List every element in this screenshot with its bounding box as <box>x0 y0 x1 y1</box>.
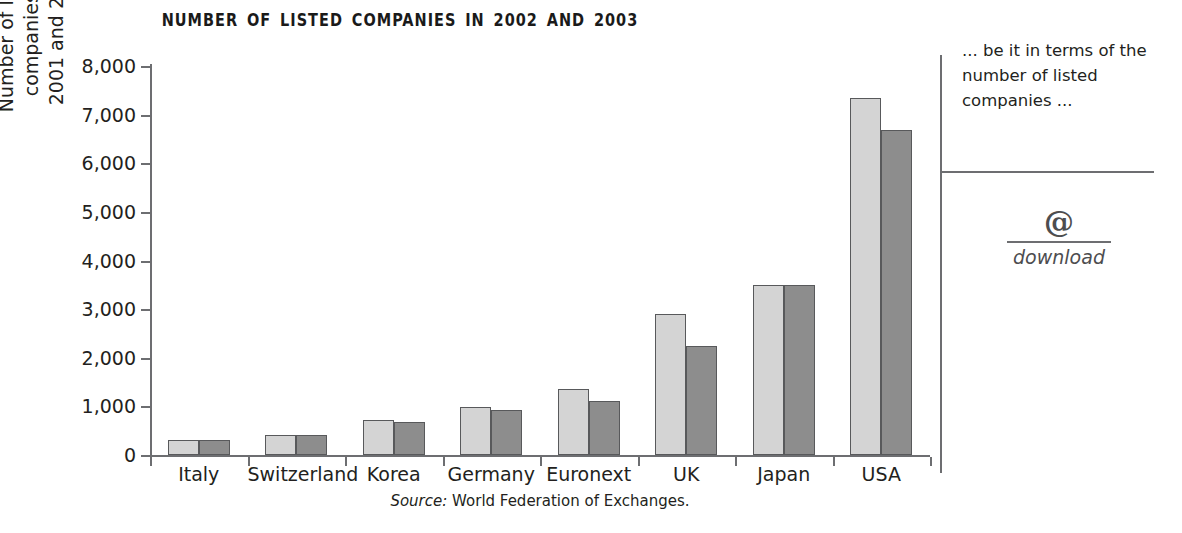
x-tick-label-italy: Italy <box>150 463 248 485</box>
download-link[interactable]: @ download <box>962 205 1156 268</box>
x-tick-label-usa: USA <box>833 463 931 485</box>
x-tick-label-uk: UK <box>638 463 736 485</box>
x-tick-mark <box>930 457 932 466</box>
y-tick-label: 1,000 <box>82 395 136 417</box>
y-tick-mark <box>141 309 150 311</box>
bar-switzerland-2002 <box>265 435 296 455</box>
y-tick-label: 8,000 <box>82 55 136 77</box>
x-tick-label-korea: Korea <box>345 463 443 485</box>
source-note: Source: World Federation of Exchanges. <box>150 492 930 510</box>
bar-switzerland-2003 <box>296 435 327 455</box>
y-tick-mark <box>141 163 150 165</box>
y-tick-label: 7,000 <box>82 104 136 126</box>
at-icon: @ <box>962 205 1156 239</box>
bar-euronext-2003 <box>589 401 620 455</box>
bar-group <box>753 66 815 455</box>
x-tick-label-euronext: Euronext <box>540 463 638 485</box>
chart-figure: NUMBER OF LISTED COMPANIES IN 2002 AND 2… <box>0 0 940 533</box>
pullquote-text: ... be it in terms of the number of list… <box>962 38 1162 113</box>
plot-area: 8,0007,0006,0005,0004,0003,0002,0001,000… <box>150 66 930 455</box>
sidebar: ... be it in terms of the number of list… <box>940 0 1182 533</box>
bar-group <box>460 66 522 455</box>
y-tick-label: 5,000 <box>82 201 136 223</box>
y-tick-label: 4,000 <box>82 250 136 272</box>
sidebar-vertical-rule <box>940 55 942 473</box>
y-tick-mark <box>141 261 150 263</box>
bar-uk-2002 <box>655 314 686 455</box>
bar-group <box>655 66 717 455</box>
bar-group <box>265 66 327 455</box>
sidebar-horizontal-rule <box>940 171 1154 173</box>
download-divider <box>1007 241 1111 243</box>
bar-italy-2003 <box>199 440 230 455</box>
bar-euronext-2002 <box>558 389 589 455</box>
bar-germany-2003 <box>491 410 522 455</box>
y-tick-mark <box>141 358 150 360</box>
bar-group <box>850 66 912 455</box>
y-tick-mark <box>141 406 150 408</box>
y-tick-mark <box>141 212 150 214</box>
bar-korea-2003 <box>394 422 425 455</box>
x-tick-label-japan: Japan <box>735 463 833 485</box>
x-tick-label-switzerland: Switzerland <box>248 463 346 485</box>
y-axis-title: Number of listed companies in 2001 and 2… <box>0 0 69 148</box>
bar-japan-2002 <box>753 285 784 455</box>
source-label: Source: <box>390 492 447 510</box>
bar-korea-2002 <box>363 420 394 455</box>
y-tick-mark <box>141 115 150 117</box>
bar-group <box>363 66 425 455</box>
bar-group <box>558 66 620 455</box>
y-tick-label: 3,000 <box>82 298 136 320</box>
bar-usa-2002 <box>850 98 881 455</box>
y-axis-title-line1: Number of listed companies in <box>0 0 42 112</box>
bar-italy-2002 <box>168 440 199 455</box>
y-tick-mark <box>141 66 150 68</box>
bar-uk-2003 <box>686 346 717 455</box>
source-text: World Federation of Exchanges. <box>452 492 690 510</box>
bar-germany-2002 <box>460 407 491 455</box>
y-tick-mark <box>141 455 150 457</box>
y-tick-label: 0 <box>124 444 136 466</box>
bar-usa-2003 <box>881 130 912 455</box>
x-tick-label-germany: Germany <box>443 463 541 485</box>
y-tick-label: 2,000 <box>82 347 136 369</box>
bar-group <box>168 66 230 455</box>
chart-title: NUMBER OF LISTED COMPANIES IN 2002 AND 2… <box>32 10 768 30</box>
bar-japan-2003 <box>784 285 815 455</box>
y-axis-title-line2: 2001 and 2002 <box>45 0 67 105</box>
download-label: download <box>962 246 1156 268</box>
y-tick-label: 6,000 <box>82 152 136 174</box>
